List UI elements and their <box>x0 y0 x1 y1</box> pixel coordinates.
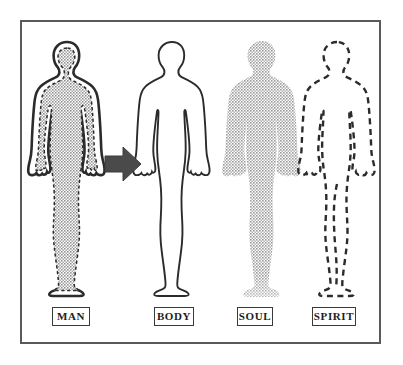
diagram-root: MAN BODY SOUL SPIRIT <box>0 0 403 365</box>
label-soul: SOUL <box>237 307 273 326</box>
label-body: BODY <box>154 307 194 326</box>
diagram-frame <box>20 20 381 344</box>
label-man: MAN <box>52 307 90 326</box>
label-spirit: SPIRIT <box>312 307 356 326</box>
